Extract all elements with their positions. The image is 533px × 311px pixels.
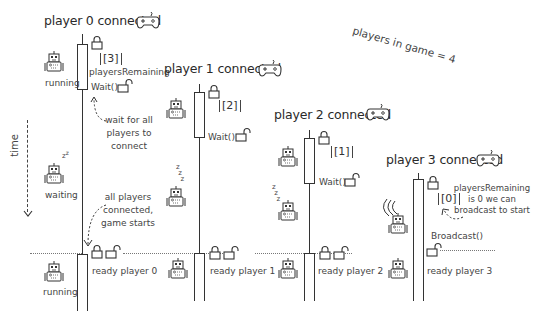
player-2-active-box-bottom [304, 253, 315, 301]
arrow-down-icon [23, 210, 33, 218]
sleep-zzz-icon: z z z [176, 164, 184, 182]
robot-icon [45, 261, 65, 283]
lock-open-icon [334, 247, 350, 260]
waiting-label: waiting [45, 190, 78, 200]
player-1-wait-call: Wait() [208, 132, 235, 142]
robot-icon [45, 163, 65, 185]
lock-open-icon [345, 174, 361, 187]
players-in-game-note: players in game = 4 [351, 24, 457, 65]
sleep-zzz-icon: zz [62, 150, 69, 160]
player-3-active-box [413, 179, 424, 301]
lock-open-icon [427, 244, 443, 257]
lock-open-icon [236, 129, 252, 142]
curved-arrow-down-icon [82, 203, 108, 247]
player-1-active-box-top [194, 92, 205, 138]
lock-open-icon [118, 80, 134, 93]
player-0-active-box-bottom [77, 254, 88, 311]
running-label: running [45, 78, 80, 88]
robot-icon [279, 146, 299, 168]
gamepad-icon [367, 104, 391, 122]
lock-closed-icon [319, 131, 330, 145]
time-axis [22, 120, 34, 220]
player-1-counter: [2] [219, 100, 241, 112]
robot-icon [167, 98, 187, 120]
player-3-broadcast-call: Broadcast() [431, 231, 483, 241]
gamepad-icon [137, 12, 161, 30]
player-3-ready-label: ready player 3 [427, 266, 492, 276]
lock-closed-icon [209, 85, 220, 99]
gamepad-icon [259, 60, 283, 78]
player-0-counter: [3] [100, 53, 122, 65]
ready-line-a [30, 253, 82, 254]
ready-line-b [123, 253, 223, 254]
robot-icon [389, 258, 409, 280]
robot-icon [169, 258, 189, 280]
robot-icon [279, 200, 299, 222]
curved-arrow-icon [441, 207, 465, 223]
robot-icon [45, 51, 65, 73]
wait-note: wait for all players to connect [104, 114, 154, 153]
lock-closed-icon [92, 36, 103, 50]
time-axis-line [27, 120, 28, 212]
lock-closed-icon [92, 245, 103, 259]
start-note: all players connected, game starts [100, 191, 156, 230]
lock-closed-icon [428, 176, 439, 190]
player-1-active-box-bottom [194, 253, 205, 301]
lock-closed-icon [210, 246, 221, 260]
lock-open-icon [224, 247, 240, 260]
gamepad-icon [477, 150, 501, 168]
player-2-active-box-top [304, 138, 315, 184]
robot-icon [279, 258, 299, 280]
player-0-wait-call: Wait() [91, 82, 118, 92]
robot-icon [389, 213, 409, 235]
player-2-wait-call: Wait() [319, 177, 346, 187]
player-2-counter: [1] [331, 146, 353, 158]
player-1-ready-label: ready player 1 [210, 266, 275, 276]
ready-line-d [440, 250, 495, 251]
robot-icon [167, 186, 187, 208]
running-label-bottom: running [43, 287, 78, 297]
player-0-ready-label: ready player 0 [92, 266, 157, 276]
time-axis-label: time [9, 134, 20, 157]
lock-closed-icon [320, 246, 331, 260]
player-0-counter-caption: playersRemaining [89, 67, 170, 77]
player-2-ready-label: ready player 2 [318, 266, 383, 276]
lock-open-icon [106, 246, 122, 259]
